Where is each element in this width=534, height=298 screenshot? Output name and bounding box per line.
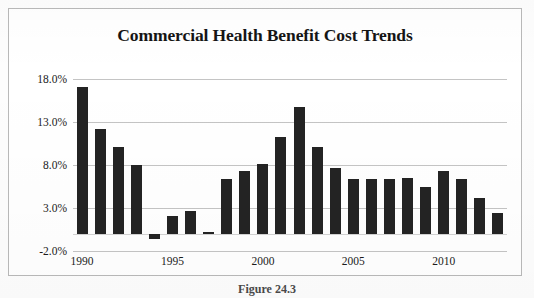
- bar-1991: [95, 129, 106, 234]
- x-axis-tick-label: 2005: [342, 255, 365, 267]
- x-axis-tick-label: 1990: [71, 255, 94, 267]
- y-axis-tick-label: 18.0%: [13, 73, 67, 85]
- bar-2001: [275, 137, 286, 234]
- bar-2009: [420, 187, 431, 234]
- y-axis-tick-label: 13.0%: [13, 116, 67, 128]
- gridline: [73, 251, 507, 252]
- bar-1997: [203, 232, 214, 234]
- x-axis: 19901995200020052010: [73, 255, 507, 275]
- bar-2002: [294, 107, 305, 233]
- bar-1998: [221, 179, 232, 234]
- bar-1995: [167, 216, 178, 234]
- bar-1993: [131, 165, 142, 234]
- bar-2012: [474, 198, 485, 234]
- bar-2007: [384, 179, 395, 234]
- x-axis-tick-label: 2000: [251, 255, 274, 267]
- figure-caption: Figure 24.3: [0, 282, 534, 298]
- bar-2008: [402, 178, 413, 234]
- scanned-page: Commercial Health Benefit Cost Trends 18…: [0, 0, 534, 298]
- bar-1992: [113, 147, 124, 234]
- y-axis-tick-label: 3.0%: [13, 202, 67, 214]
- y-axis: 18.0%13.0%8.0%3.0%-2.0%: [9, 79, 67, 251]
- y-axis-tick-label: 8.0%: [13, 159, 67, 171]
- bar-1996: [185, 211, 196, 233]
- plot-area: [73, 79, 507, 251]
- bar-2000: [257, 164, 268, 234]
- bar-1999: [239, 171, 250, 234]
- bar-2011: [456, 179, 467, 234]
- bar-2006: [366, 179, 377, 234]
- bar-2013: [492, 213, 503, 234]
- bar-1994: [149, 234, 160, 239]
- x-axis-tick-label: 1995: [161, 255, 184, 267]
- chart-title: Commercial Health Benefit Cost Trends: [9, 25, 521, 46]
- bar-2010: [438, 171, 449, 234]
- x-axis-tick-label: 2010: [432, 255, 455, 267]
- bar-1990: [77, 87, 88, 234]
- chart-frame: Commercial Health Benefit Cost Trends 18…: [8, 8, 522, 276]
- bar-2005: [348, 179, 359, 234]
- bar-series: [73, 79, 507, 251]
- bar-2003: [312, 147, 323, 234]
- y-axis-tick-label: -2.0%: [13, 245, 67, 257]
- bar-2004: [330, 168, 341, 234]
